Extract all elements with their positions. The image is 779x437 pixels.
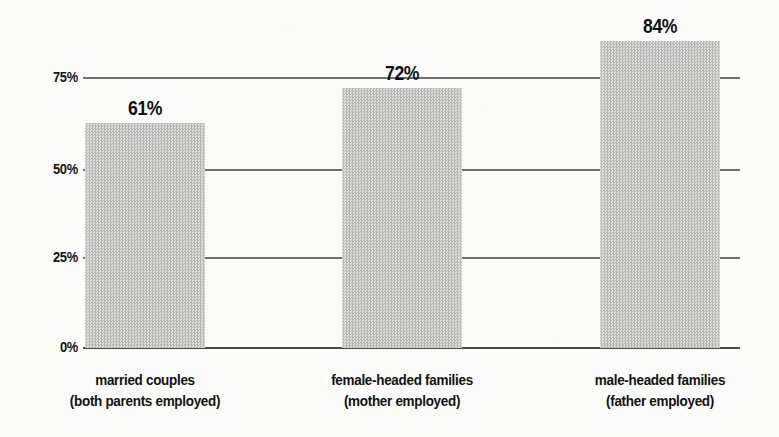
bar-value-label-married-couples: 61% [95,96,196,120]
ytick-label-50: 50% [53,160,78,177]
ytick-75: 75% [26,68,78,86]
ytick-label-0: 0% [60,338,78,355]
category-label-line2: (both parents employed) [41,390,250,411]
bar-chart: 75% 50% 25% 0% 61% married couples (both… [0,0,779,437]
category-label-line2: (father employed) [556,390,765,411]
category-label-line1: male-headed families [595,371,725,388]
category-label-line2: (mother employed) [298,390,507,411]
ytick-label-75: 75% [53,68,78,85]
chart-page: 75% 50% 25% 0% 61% married couples (both… [0,0,779,437]
ytick-label-25: 25% [53,248,78,265]
bar-male-headed-families [600,41,720,348]
category-label-line1: female-headed families [331,371,473,388]
category-label-married-couples: married couples (both parents employed) [41,369,250,411]
bar-married-couples [85,123,205,348]
bar-value-label-male-headed-families: 84% [610,14,711,38]
ytick-0: 0% [26,338,78,356]
ytick-50: 50% [26,160,78,178]
category-label-female-headed-families: female-headed families (mother employed) [298,369,507,411]
ytick-25: 25% [26,248,78,266]
bar-value-label-female-headed-families: 72% [352,61,453,85]
bar-female-headed-families [342,88,462,348]
category-label-male-headed-families: male-headed families (father employed) [556,369,765,411]
category-label-line1: married couples [95,371,195,388]
